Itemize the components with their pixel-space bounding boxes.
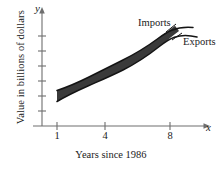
x-tick-label-8: 8 <box>163 131 177 142</box>
y-axis-variable-name: y <box>35 3 40 14</box>
x-tick-label-4: 4 <box>98 131 112 142</box>
series-line-imports <box>57 27 193 90</box>
x-axis-label: Years since 1986 <box>44 150 178 161</box>
series-label-exports: Exports <box>183 37 216 48</box>
y-axis-label: Value in billions of dollars <box>16 2 27 132</box>
chart-figure: Value in billions of dollars Years since… <box>0 0 224 169</box>
y-axis-arrow-icon <box>39 7 45 14</box>
x-tick-label-1: 1 <box>50 131 64 142</box>
x-axis-variable-name: x <box>206 122 211 133</box>
series-line-exports <box>57 35 197 101</box>
chart-plot-area <box>0 0 224 169</box>
series-label-imports: Imports <box>138 18 171 29</box>
